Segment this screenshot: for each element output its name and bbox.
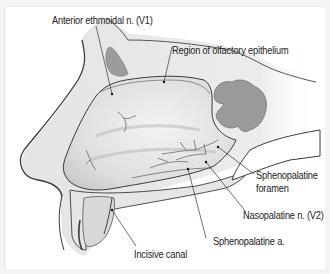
label-sphenopalatine-artery: Sphenopalatine a.	[213, 235, 285, 247]
label-incisive-canal: Incisive canal	[134, 248, 187, 260]
label-anterior-ethmoidal-nerve: Anterior ethmoidal n. (V1)	[52, 14, 153, 26]
label-sphenopalatine-foramen-line2: foramen	[256, 182, 289, 194]
label-nasopalatine-nerve: Nasopalatine n. (V2)	[243, 209, 324, 221]
premaxilla	[83, 197, 115, 247]
nasal-cavity-illustration	[0, 0, 330, 274]
label-sphenopalatine-foramen-line1: Sphenopalatine	[256, 169, 318, 181]
label-olfactory-epithelium: Region of olfactory epithelium	[172, 44, 288, 56]
